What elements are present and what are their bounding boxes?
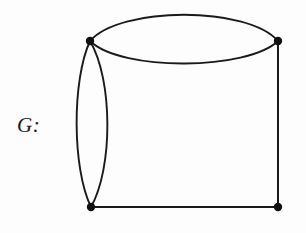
vertex-bottom-left (87, 203, 95, 211)
edge-left-outer (77, 41, 91, 207)
graph-drawing (0, 0, 306, 233)
vertex-top-left (86, 37, 94, 45)
vertex-top-right (274, 37, 282, 45)
graph-figure: G: (0, 0, 306, 233)
edge-group (77, 15, 278, 207)
edge-top-lower (90, 41, 278, 64)
edge-left-inner (90, 41, 107, 207)
vertex-bottom-right (274, 203, 282, 211)
edge-top-upper (90, 15, 278, 41)
